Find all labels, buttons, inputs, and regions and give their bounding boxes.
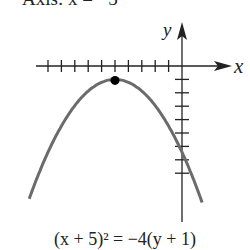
x-axis-label: x <box>234 54 243 79</box>
equation-caption: (x + 5)² = −4(y + 1) <box>0 229 250 250</box>
parabola-graph <box>0 0 250 250</box>
y-axis-label: y <box>163 19 171 41</box>
vertex-point <box>111 76 120 85</box>
parabola-curve <box>29 79 202 202</box>
